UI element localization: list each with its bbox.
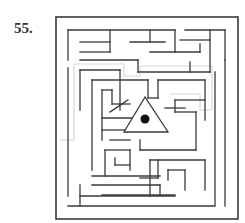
maze — [0, 0, 245, 223]
goal-triangle — [124, 97, 168, 132]
maze-wall — [110, 100, 128, 112]
goal-dot-icon — [141, 115, 150, 124]
